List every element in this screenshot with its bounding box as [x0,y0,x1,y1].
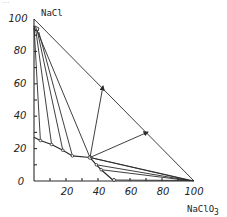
corner-label-nacl: NaCl [41,8,63,18]
hypotenuse [34,19,194,181]
y-tick-20: 20 [14,143,27,154]
corner-label-naclo3-base: NaClO [187,204,214,214]
x-tick-60: 60 [125,186,138,197]
tie-lines-naclo3 [90,158,194,182]
diagram-canvas: ... [0,0,227,217]
y-tick-100: 100 [8,13,27,24]
x-tick-20: 20 [61,186,74,197]
y-tick-60: 60 [14,78,27,89]
y-tick-40: 40 [14,110,27,121]
corner-label-naclo3-sub: 3 [214,208,219,217]
cut-header-text: ... [2,0,10,5]
arrow-up-icon [90,86,103,158]
corner-label-naclo3: NaClO3 [187,204,219,217]
phase-diagram: ... [0,0,227,217]
y-tick-80: 80 [14,45,27,56]
crystallization-arrows [90,86,148,158]
arrow-right-icon [90,132,148,158]
y-tick-labels: 0 20 40 60 80 100 [8,13,27,187]
x-tick-80: 80 [157,186,170,197]
x-tick-40: 40 [93,186,106,197]
y-tick-0: 0 [18,176,24,187]
tie-lines-nacl [34,26,90,158]
x-tick-100: 100 [184,186,203,197]
axes [34,19,194,181]
solubility-curve [34,137,114,181]
x-tick-labels: 20 40 60 80 100 [61,186,204,197]
